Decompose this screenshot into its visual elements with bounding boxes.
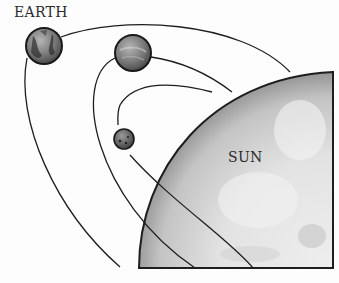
earth-planet <box>26 28 62 64</box>
diagram-canvas <box>0 0 339 283</box>
earth-orbit-top <box>61 25 290 72</box>
solar-diagram: EARTH SUN <box>0 0 339 283</box>
mercury-planet <box>114 129 134 149</box>
sun <box>139 72 333 268</box>
venus-planet <box>115 35 151 71</box>
earth-orbit-bottom <box>25 58 120 267</box>
mercury-orbit-top <box>118 85 212 125</box>
sun-label: SUN <box>228 149 263 165</box>
earth-label: EARTH <box>14 4 68 20</box>
